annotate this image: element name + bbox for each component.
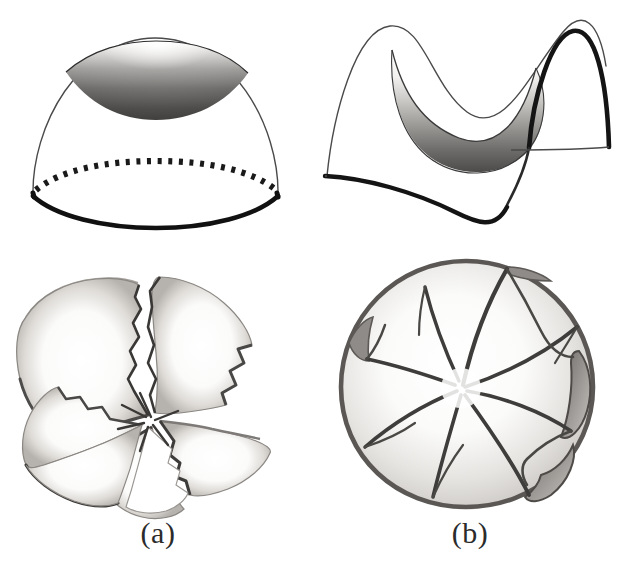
caption-b: (b) <box>425 518 515 548</box>
panel-torn-disc <box>0 245 311 520</box>
figure-root: (a) (b) <box>0 0 623 574</box>
panel-sphere-dome <box>0 0 311 245</box>
dome-equator-left-cap <box>33 193 34 197</box>
panel-saddle-surface <box>311 0 623 245</box>
page-text-fragment <box>0 562 623 574</box>
torn-petal <box>152 277 252 414</box>
dome-equator-right-cap <box>277 193 278 197</box>
torn-petals <box>17 277 271 519</box>
panel-pleated-disc <box>311 245 623 520</box>
dome-equator-front-solid <box>33 196 278 228</box>
pleat-center-highlight <box>441 368 481 408</box>
caption-a: (a) <box>113 518 203 548</box>
